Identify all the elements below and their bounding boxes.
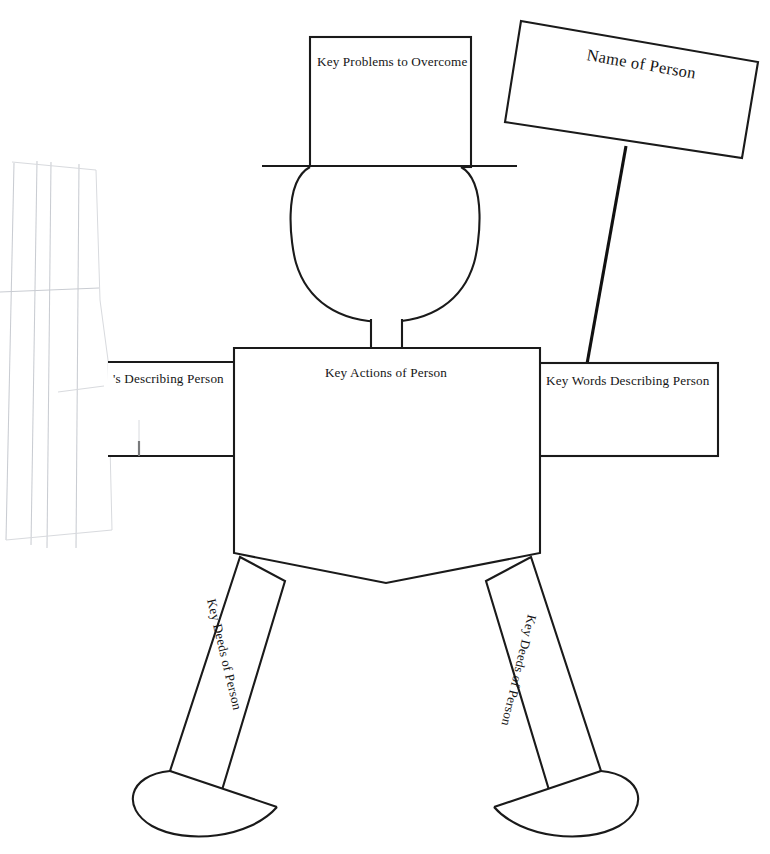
right-leg[interactable]: Key Deeds of Person: [486, 557, 601, 800]
left-arm-label: 's Describing Person: [113, 371, 224, 386]
hat-label: Key Problems to Overcome: [317, 54, 467, 69]
left-arm[interactable]: 's Describing Person: [108, 362, 236, 456]
worksheet-page: Name of Person Key Problems to Overcome: [0, 0, 770, 854]
torso[interactable]: Key Actions of Person: [234, 348, 540, 583]
left-leg[interactable]: Key Deeds of Person: [170, 557, 285, 800]
head[interactable]: [291, 167, 480, 322]
neck: [371, 319, 402, 351]
name-sign[interactable]: Name of Person: [505, 21, 758, 158]
right-arm-label: Key Words Describing Person: [546, 373, 710, 388]
sign-pole: [587, 146, 626, 364]
body-biography-diagram: Name of Person Key Problems to Overcome: [0, 0, 770, 854]
scan-ghost-lines: [0, 161, 112, 548]
hat-crown[interactable]: Key Problems to Overcome: [310, 37, 471, 167]
right-arm[interactable]: Key Words Describing Person: [539, 363, 718, 456]
torso-label: Key Actions of Person: [325, 365, 447, 380]
